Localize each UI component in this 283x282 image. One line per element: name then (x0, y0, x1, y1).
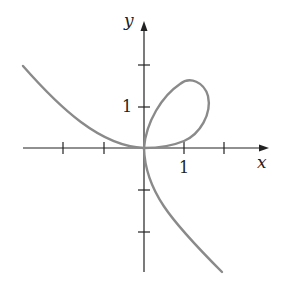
x-tick-label-1: 1 (179, 158, 189, 177)
y-axis-arrow-icon (141, 21, 148, 31)
x-axis-arrow-icon (259, 145, 269, 152)
y-axis-label: y (124, 10, 134, 30)
y-tick-label-1: 1 (122, 97, 132, 116)
plot-svg (0, 0, 283, 282)
x-axis-label: x (257, 152, 267, 172)
diagram-canvas: y x 1 1 (0, 0, 283, 282)
